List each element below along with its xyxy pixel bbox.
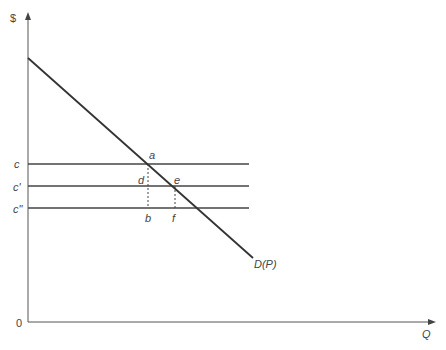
point-d-label: d [138,174,145,186]
label-c: c [14,158,20,170]
point-e-label: e [174,174,180,186]
label-c-prime: c' [13,181,22,193]
x-axis-label: Q [422,328,431,340]
label-c-double-prime: c" [13,203,24,215]
point-f-label: f [172,212,176,224]
demand-curve-label: D(P) [254,258,277,270]
point-b-label: b [145,212,151,224]
demand-diagram: $ Q 0 c c' c" a d b e f D(P) [0,0,446,350]
origin-label: 0 [16,317,22,329]
point-a-label: a [149,149,155,161]
demand-curve [28,58,253,258]
y-axis-label: $ [10,12,16,24]
